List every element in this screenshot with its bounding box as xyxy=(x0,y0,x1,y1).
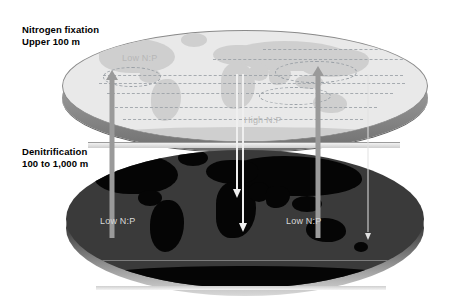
landmass-greenland xyxy=(181,33,207,47)
label-low-np-upper: Low N:P xyxy=(122,53,157,63)
arrow-shaft xyxy=(242,74,244,224)
lower-panel-base-band xyxy=(96,286,386,290)
landmass-antarctica xyxy=(103,127,393,142)
contour-line-4 xyxy=(107,93,393,94)
callout-nitrogen-fixation-depth: Upper 100 m xyxy=(22,36,99,48)
landmass-new-zealand-dark xyxy=(354,242,368,252)
landmass-india-dark xyxy=(266,186,290,208)
downward-export-arrow-atlantic xyxy=(364,74,372,240)
arrow-shaft xyxy=(110,79,115,238)
contour-line-7 xyxy=(263,49,403,50)
arrow-head-down xyxy=(365,233,371,240)
callout-denitrification: Denitrification 100 to 1,000 m xyxy=(22,146,88,169)
landmass-south-america xyxy=(151,79,181,121)
callout-nitrogen-fixation: Nitrogen fixation Upper 100 m xyxy=(22,24,99,47)
callout-denitrification-depth: 100 to 1,000 m xyxy=(22,158,88,170)
callout-nitrogen-fixation-title: Nitrogen fixation xyxy=(22,24,99,35)
label-low-np-lower-right: Low N:P xyxy=(286,216,321,226)
callout-denitrification-title: Denitrification xyxy=(22,146,87,157)
arrow-head-down xyxy=(239,223,247,232)
arrow-shaft xyxy=(368,74,369,232)
landmass-antarctica-dark xyxy=(96,266,396,288)
latitude-line-dark xyxy=(92,260,402,261)
landmass-greenland-dark xyxy=(178,150,208,166)
upward-nitrogen-fixation-arrow-right xyxy=(312,66,324,238)
landmass-arabia xyxy=(249,63,269,81)
arrow-shaft xyxy=(316,75,321,238)
landmass-north-europe xyxy=(213,45,261,65)
upward-nitrogen-fixation-arrow-left xyxy=(106,70,118,238)
figure-canvas: Low N:P High N:P Low N:P Low N:P Nitroge… xyxy=(0,0,456,307)
landmass-south-america-dark xyxy=(150,200,184,252)
label-high-np-upper: High N:P xyxy=(244,115,282,125)
downward-export-arrow-b xyxy=(238,74,248,232)
label-low-np-lower-left: Low N:P xyxy=(100,216,135,226)
contour-line-1 xyxy=(213,59,423,60)
